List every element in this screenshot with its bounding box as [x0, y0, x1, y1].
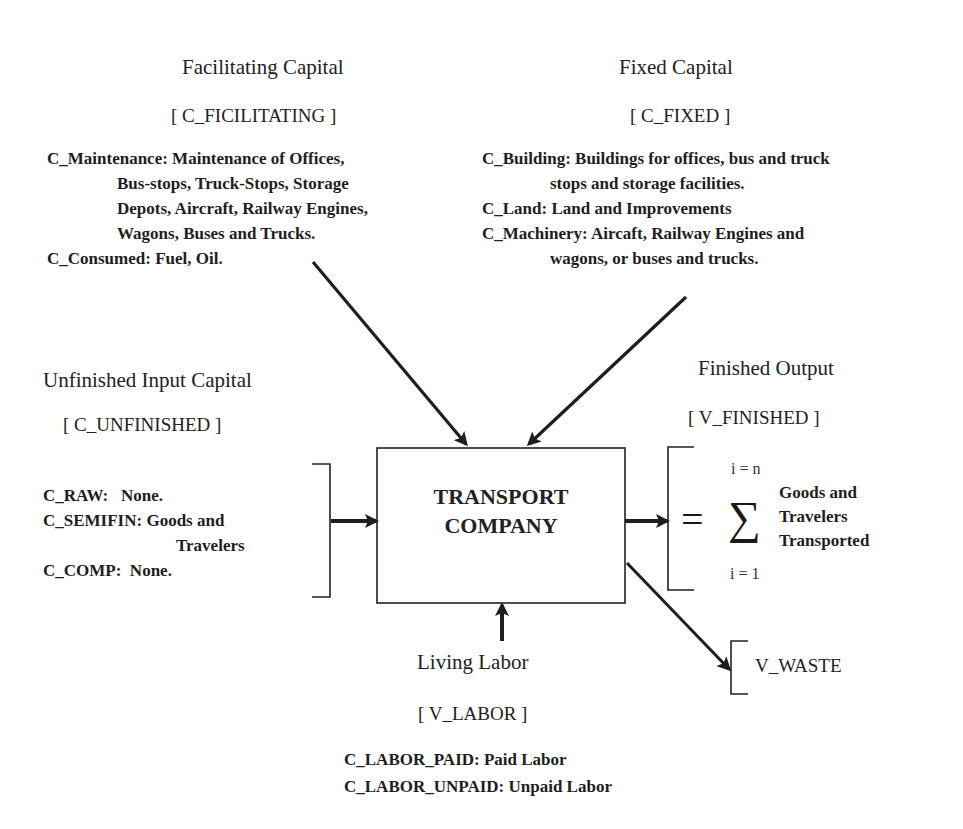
waste-code: V_WASTE: [755, 655, 842, 677]
facilitating-capital-title: Facilitating Capital: [182, 55, 344, 80]
equals-sign: =: [681, 496, 704, 543]
detail-line: C_SEMIFIN: Goods and: [43, 508, 245, 533]
transport-company-line1: TRANSPORT: [377, 482, 625, 511]
sum-lower-limit: i = 1: [730, 565, 759, 583]
sigma-icon: ∑: [728, 491, 761, 544]
finished-output-title: Finished Output: [698, 356, 834, 381]
detail-line: Goods and: [779, 481, 869, 505]
detail-line: C_RAW: None.: [43, 483, 245, 508]
living-labor-code: [ V_LABOR ]: [418, 703, 527, 725]
detail-line: Travelers: [43, 533, 245, 558]
fixed-capital-details: C_Building: Buildings for offices, bus a…: [482, 146, 830, 271]
detail-line: stops and storage facilities.: [482, 171, 830, 196]
transport-company-label: TRANSPORT COMPANY: [377, 482, 625, 540]
waste-bracket: [731, 641, 748, 694]
detail-line: C_Consumed: Fuel, Oil.: [47, 246, 368, 271]
transport-company-line2: COMPANY: [377, 511, 625, 540]
living-labor-details: C_LABOR_PAID: Paid Labor C_LABOR_UNPAID:…: [344, 746, 612, 800]
sum-upper-limit: i = n: [731, 460, 760, 478]
detail-line: Wagons, Buses and Trucks.: [47, 221, 368, 246]
detail-line: C_LABOR_PAID: Paid Labor: [344, 746, 612, 773]
detail-line: C_Maintenance: Maintenance of Offices,: [47, 146, 368, 171]
detail-line: C_Machinery: Aircaft, Railway Engines an…: [482, 221, 830, 246]
detail-line: C_COMP: None.: [43, 558, 245, 583]
detail-line: C_LABOR_UNPAID: Unpaid Labor: [344, 773, 612, 800]
unfinished-input-capital-title: Unfinished Input Capital: [43, 368, 252, 393]
detail-line: C_Land: Land and Improvements: [482, 196, 830, 221]
fixed-capital-code: [ C_FIXED ]: [630, 105, 730, 127]
finished-output-details: Goods and Travelers Transported: [779, 481, 869, 553]
facilitating-capital-arrow: [313, 262, 466, 444]
facilitating-capital-details: C_Maintenance: Maintenance of Offices, B…: [47, 146, 368, 271]
unfinished-bracket: [312, 464, 330, 597]
detail-line: Depots, Aircraft, Railway Engines,: [47, 196, 368, 221]
unfinished-input-capital-details: C_RAW: None. C_SEMIFIN: Goods and Travel…: [43, 483, 245, 583]
detail-line: wagons, or buses and trucks.: [482, 246, 830, 271]
living-labor-title: Living Labor: [417, 650, 528, 675]
detail-line: Bus-stops, Truck-Stops, Storage: [47, 171, 368, 196]
detail-line: Transported: [779, 529, 869, 553]
detail-line: Travelers: [779, 505, 869, 529]
fixed-capital-arrow: [529, 297, 686, 444]
finished-output-code: [ V_FINISHED ]: [688, 407, 820, 429]
unfinished-input-capital-code: [ C_UNFINISHED ]: [63, 414, 221, 436]
facilitating-capital-code: [ C_FICILITATING ]: [171, 105, 336, 127]
detail-line: C_Building: Buildings for offices, bus a…: [482, 146, 830, 171]
waste-arrow: [627, 563, 729, 669]
fixed-capital-title: Fixed Capital: [619, 55, 733, 80]
